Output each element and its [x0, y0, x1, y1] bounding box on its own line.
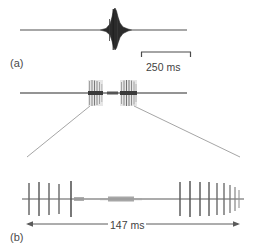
scale-bar-label: 250 ms [146, 61, 180, 73]
faint-middle-burst [100, 197, 142, 202]
figure-canvas [0, 0, 266, 250]
waveform-figure: (a) (b) 250 ms 147 ms [0, 0, 266, 250]
burst-right-core [120, 91, 137, 95]
faint-inter-burst [107, 92, 118, 95]
duration-arrowhead-left [26, 221, 33, 227]
scale-bar-250ms [141, 52, 191, 57]
burst-left-core [88, 91, 103, 95]
faint-middle-tail [100, 198, 142, 200]
expansion-line-right [134, 106, 240, 157]
duration-arrowhead-right [233, 221, 240, 227]
duration-label: 147 ms [108, 219, 146, 231]
panel-label-a: (a) [10, 57, 23, 69]
panel-label-b: (b) [10, 231, 23, 243]
expansion-lines [27, 106, 240, 157]
burst-cluster-left [88, 80, 103, 106]
left-group-decay [74, 197, 84, 201]
expanded-pulse-trace [22, 181, 244, 217]
compressed-sequence-trace [20, 80, 187, 106]
single-call-trace [20, 8, 187, 50]
call-envelope [100, 8, 132, 50]
expansion-line-left [27, 106, 90, 157]
burst-cluster-right [120, 80, 137, 106]
faint-inter-burst-core [107, 92, 118, 95]
